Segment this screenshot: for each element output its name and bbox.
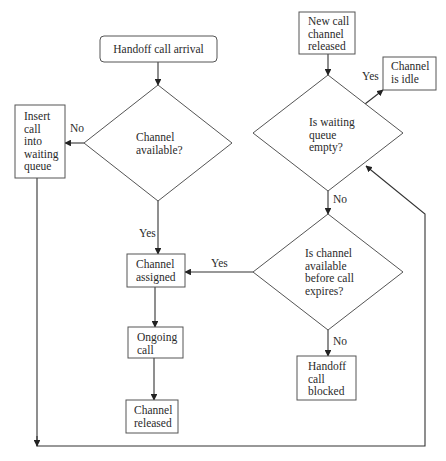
edge-queue-empty-to-channel-idle xyxy=(365,90,383,104)
edge-label: No xyxy=(333,335,347,347)
node-before-expiry: Is channelavailablebefore callexpires? xyxy=(253,214,403,330)
node-label: assigned xyxy=(136,271,176,284)
node-handoff-arrival: Handoff call arrival xyxy=(100,36,217,62)
node-label: Insert xyxy=(24,110,51,122)
node-label: is idle xyxy=(391,73,419,85)
node-label: queue xyxy=(309,129,336,142)
node-new-call-released: New callchannelreleased xyxy=(299,12,355,54)
edge-label: Yes xyxy=(211,257,228,269)
node-label: before call xyxy=(305,272,354,284)
node-label: Channel xyxy=(136,131,174,143)
node-label: Handoff call arrival xyxy=(113,43,203,55)
node-label: released xyxy=(308,40,346,52)
node-label: Is waiting xyxy=(309,116,355,129)
node-label: waiting xyxy=(24,148,59,161)
node-label: empty? xyxy=(309,141,343,154)
handoff-flowchart: Handoff call arrivalChannelavailable?Ins… xyxy=(0,0,446,461)
edge-label: Yes xyxy=(362,70,379,82)
node-label: Ongoing xyxy=(137,331,178,344)
node-label: Channel xyxy=(134,404,172,416)
node-label: queue xyxy=(24,160,51,173)
node-handoff-blocked: Handoffcallblocked xyxy=(297,356,356,400)
node-label: available xyxy=(305,260,347,272)
node-label: Is channel xyxy=(305,247,352,259)
node-label: blocked xyxy=(308,385,345,397)
node-label: call xyxy=(308,373,325,385)
edge-insert-queue-to-queue-empty xyxy=(37,166,425,446)
node-label: released xyxy=(134,417,172,429)
node-label: available? xyxy=(136,144,183,156)
node-label: call xyxy=(24,123,41,135)
node-label: New call xyxy=(308,15,349,27)
node-channel-assigned: Channelassigned xyxy=(127,254,185,287)
node-ongoing-call: Ongoingcall xyxy=(128,327,183,358)
node-insert-queue: Insertcallintowaitingqueue xyxy=(15,105,65,178)
node-label: channel xyxy=(308,28,344,40)
node-label: Handoff xyxy=(308,360,346,372)
node-channel-released: Channelreleased xyxy=(126,400,178,433)
edge-label: Yes xyxy=(139,227,156,239)
node-channel-idle: Channelis idle xyxy=(383,57,436,90)
edge-label: No xyxy=(333,193,347,205)
node-label: Channel xyxy=(391,60,429,72)
node-label: Channel xyxy=(136,258,174,270)
node-label: into xyxy=(24,135,42,147)
edge-label: No xyxy=(70,122,84,134)
node-channel-available: Channelavailable? xyxy=(84,85,232,201)
node-label: expires? xyxy=(305,285,343,298)
node-label: call xyxy=(137,344,154,356)
